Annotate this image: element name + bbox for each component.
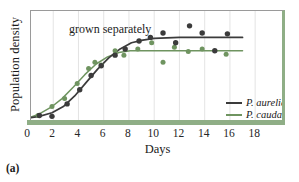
legend-item-caudatum: P. caudatum [226, 109, 285, 120]
x-tick-8: 8 [117, 127, 139, 139]
x-tick-18: 18 [243, 127, 265, 139]
x-tick-14: 14 [193, 127, 215, 139]
legend-swatch-caudatum [226, 114, 242, 116]
x-axis-label: Days [30, 142, 285, 157]
x-tick-16: 16 [218, 127, 240, 139]
y-axis-label: Population density [8, 3, 23, 127]
panel-letter: (a) [6, 162, 19, 174]
x-tick-2: 2 [41, 127, 63, 139]
legend-swatch-aurelia [226, 102, 242, 104]
in-plot-caption: grown separately [69, 22, 151, 37]
x-tick-4: 4 [66, 127, 88, 139]
x-tick-12: 12 [167, 127, 189, 139]
x-tick-10: 10 [142, 127, 164, 139]
x-axis-tick-labels: 024681012141618 [0, 127, 299, 141]
chart-legend: P. aurelia P. caudatum [226, 97, 285, 121]
figure-panel-a: Population density grown separately P. a… [0, 0, 299, 182]
legend-item-aurelia: P. aurelia [226, 97, 285, 108]
x-axis-bar [27, 120, 285, 125]
legend-label-aurelia: P. aurelia [246, 97, 285, 108]
legend-label-caudatum: P. caudatum [246, 109, 285, 120]
x-tick-0: 0 [16, 127, 38, 139]
x-tick-6: 6 [92, 127, 114, 139]
plot-frame: grown separately P. aurelia P. caudatum [30, 10, 285, 124]
